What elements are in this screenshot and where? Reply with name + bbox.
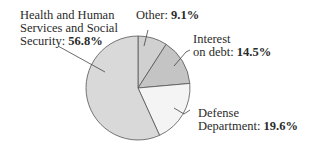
label-defense-line2: Department: 19.6% bbox=[198, 120, 298, 133]
label-defense-value: 19.6% bbox=[264, 119, 298, 133]
label-interest: Interest on debt: 14.5% bbox=[193, 33, 271, 59]
label-hhs-name: Security: bbox=[20, 34, 65, 48]
label-hhs-value: 56.8% bbox=[68, 34, 102, 48]
label-interest-name: on debt: bbox=[193, 45, 234, 59]
pie-slices bbox=[86, 36, 190, 140]
label-other-value: 9.1% bbox=[171, 8, 199, 22]
label-interest-value: 14.5% bbox=[237, 45, 271, 59]
label-hhs-line3: Security: 56.8% bbox=[20, 35, 118, 48]
label-defense: Defense Department: 19.6% bbox=[198, 107, 298, 133]
label-hhs: Health and Human Services and Social Sec… bbox=[20, 9, 118, 48]
label-defense-name: Department: bbox=[198, 119, 260, 133]
label-other-name: Other: bbox=[136, 8, 168, 22]
label-other: Other: 9.1% bbox=[136, 9, 199, 22]
label-interest-line2: on debt: 14.5% bbox=[193, 46, 271, 59]
